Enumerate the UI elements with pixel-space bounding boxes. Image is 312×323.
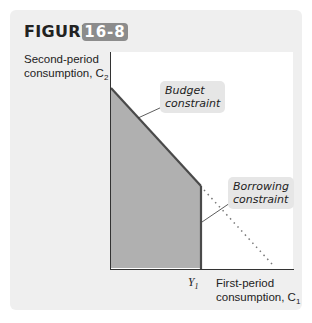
- x-tick-subscript: 1: [194, 282, 198, 291]
- x-axis-label-text: consumption, C: [216, 291, 296, 303]
- budget-callout-line1: Budget: [165, 84, 220, 97]
- x-tick-y1: Y1: [188, 276, 198, 291]
- feasible-region: [111, 88, 201, 268]
- x-axis-label-line1: First-period: [216, 276, 300, 290]
- budget-constraint-callout: Budget constraint: [160, 81, 225, 113]
- x-axis-label-subscript: 1: [296, 297, 300, 306]
- x-axis-label-line2: consumption, C1: [216, 290, 300, 309]
- budget-callout-leader: [138, 107, 162, 118]
- chart-svg: [0, 0, 312, 323]
- x-axis-label: First-period consumption, C1: [216, 276, 300, 309]
- borrowing-constraint-callout: Borrowing constraint: [228, 177, 294, 209]
- borrowing-callout-line2: constraint: [233, 193, 289, 206]
- borrowing-callout-line1: Borrowing: [233, 180, 289, 193]
- budget-callout-line2: constraint: [165, 97, 220, 110]
- borrowing-callout-leader: [202, 203, 230, 222]
